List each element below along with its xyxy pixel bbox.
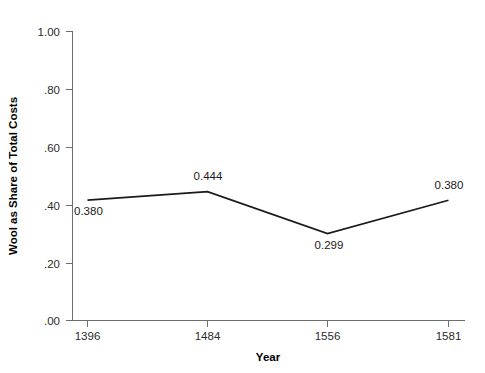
y-axis-title: Wool as Share of Total Costs xyxy=(7,97,19,255)
line-chart: 1.00 .80 .60 .40 .20 .00 Wool as Share o… xyxy=(0,0,485,373)
y-tick-label-5: .20 xyxy=(44,258,60,270)
x-tick-label-2: 1484 xyxy=(195,330,221,342)
point-label-4: 0.380 xyxy=(435,179,464,191)
y-tick-label-3: .60 xyxy=(44,142,60,154)
y-tick-label-6: .00 xyxy=(44,315,60,327)
y-tick-label-4: .40 xyxy=(44,200,60,212)
chart-canvas: 1.00 .80 .60 .40 .20 .00 Wool as Share o… xyxy=(0,0,485,373)
x-tick-label-3: 1556 xyxy=(315,330,341,342)
data-series-line xyxy=(88,192,449,234)
x-tick-label-4: 1581 xyxy=(436,330,462,342)
y-tick-label-2: .80 xyxy=(44,84,60,96)
point-label-2: 0.444 xyxy=(194,170,223,182)
point-label-3: 0.299 xyxy=(315,239,344,251)
x-axis-title: Year xyxy=(256,351,281,363)
point-label-1: 0.380 xyxy=(74,205,103,217)
x-tick-label-1: 1396 xyxy=(75,330,101,342)
y-tick-label-1: 1.00 xyxy=(38,26,60,38)
